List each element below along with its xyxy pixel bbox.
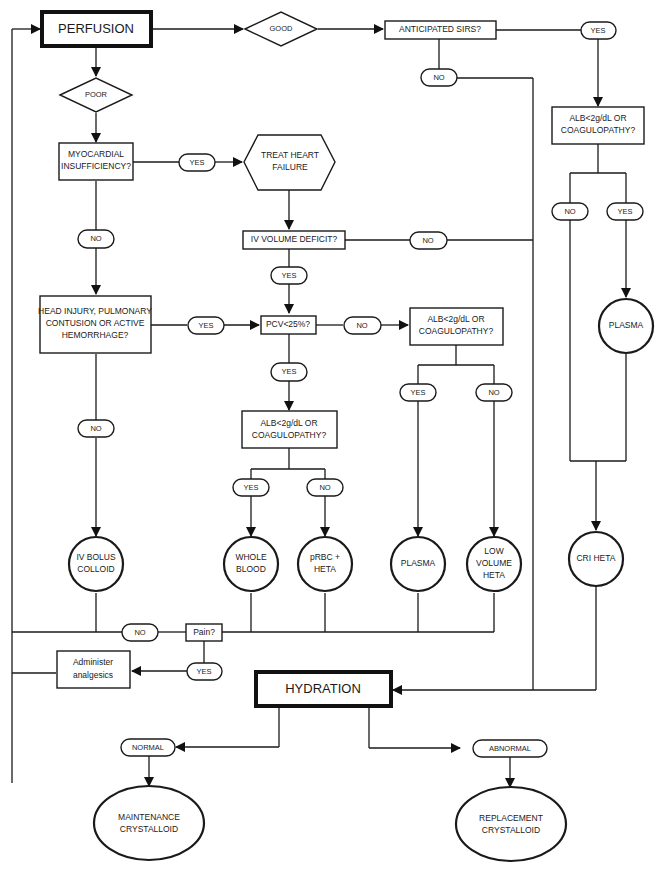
pcv-node: PCV<25%?: [261, 316, 316, 334]
analgesics-label-1: Administer: [73, 657, 113, 667]
replacement-label-2: CRYSTALLOID: [482, 825, 540, 835]
pcv-yes-alb-no-label: NO: [319, 483, 330, 492]
myocardial-no-label: NO: [90, 234, 101, 243]
poor-decision: POOR: [60, 78, 132, 112]
prbc-heta-circle: pRBC + HETA: [298, 537, 352, 591]
normal-pill: NORMAL: [121, 739, 175, 756]
head-injury-label-3: HEMORRHAGE?: [62, 330, 129, 340]
perfusion-label: PERFUSION: [58, 21, 134, 36]
low-volume-label-2: VOLUME: [476, 558, 512, 568]
head-injury-no-label: NO: [90, 424, 101, 433]
normal-label: NORMAL: [132, 743, 164, 752]
low-volume-heta-circle: LOW VOLUME HETA: [467, 537, 521, 591]
iv-bolus-label-1: IV BOLUS: [76, 552, 116, 562]
pcv-yes-alb-yes-pill: YES: [233, 479, 269, 496]
treat-heart-label-1: TREAT HEART: [261, 150, 319, 160]
plasma-label: PLASMA: [401, 558, 436, 568]
right-plasma-label: PLASMA: [609, 320, 644, 330]
pcv-no-alb-no-pill: NO: [476, 384, 512, 401]
myocardial-node: MYOCARDIAL INSUFFICIENCY?: [59, 143, 133, 180]
treat-heart-failure-node: TREAT HEART FAILURE: [244, 135, 335, 190]
cri-heta-label: CRI HETA: [576, 553, 615, 563]
pcv-yes-alb-node: ALB<2g/dL OR COAGULOPATHY?: [242, 411, 337, 448]
right-alb-node: ALB<2g/dL OR COAGULOPATHY?: [552, 107, 644, 144]
plasma-circle: PLASMA: [391, 537, 445, 591]
head-injury-yes-pill: YES: [188, 317, 224, 334]
right-alb-no-label: NO: [564, 207, 575, 216]
head-injury-no-pill: NO: [78, 420, 114, 437]
pain-label: Pain?: [193, 627, 215, 637]
pain-no-label: NO: [134, 628, 145, 637]
pain-yes-pill: YES: [187, 663, 222, 680]
low-volume-label-3: HETA: [483, 570, 505, 580]
anticipated-sirs-label: ANTICIPATED SIRS?: [399, 24, 481, 34]
abnormal-label: ABNORMAL: [489, 744, 531, 753]
right-alb-yes-pill: YES: [607, 203, 643, 220]
whole-blood-label-1: WHOLE: [235, 552, 267, 562]
prbc-label-2: HETA: [314, 564, 336, 574]
pcv-yes-label: YES: [281, 367, 296, 376]
whole-blood-label-2: BLOOD: [236, 564, 266, 574]
administer-analgesics-node: Administer analgesics: [57, 651, 130, 688]
iv-volume-yes-pill: YES: [271, 267, 307, 284]
poor-label: POOR: [85, 90, 108, 99]
pcv-no-alb-yes-pill: YES: [400, 384, 436, 401]
maintenance-label-2: CRYSTALLOID: [120, 824, 178, 834]
pcv-label: PCV<25%?: [266, 319, 310, 329]
hydration-node: HYDRATION: [256, 672, 391, 706]
pcv-no-alb-label-1: ALB<2g/dL OR: [427, 314, 484, 324]
head-injury-yes-label: YES: [198, 321, 213, 330]
right-alb-label-2: COAGULOPATHY?: [561, 125, 636, 135]
pcv-yes-alb-label-1: ALB<2g/dL OR: [260, 418, 317, 428]
replacement-crystalloid-ellipse: REPLACEMENT CRYSTALLOID: [456, 787, 566, 861]
myocardial-yes-pill: YES: [179, 154, 215, 171]
pcv-no-label: NO: [356, 321, 367, 330]
iv-volume-no-pill: NO: [410, 232, 447, 249]
sirs-no-pill: NO: [421, 69, 457, 86]
iv-volume-deficit-label: IV VOLUME DEFICIT?: [251, 234, 338, 244]
myocardial-no-pill: NO: [78, 230, 114, 248]
pcv-yes-alb-label-2: COAGULOPATHY?: [252, 430, 327, 440]
head-injury-label-1: HEAD INJURY, PULMONARY: [38, 306, 152, 316]
right-plasma-circle: PLASMA: [599, 299, 653, 353]
pain-yes-label: YES: [196, 667, 211, 676]
myocardial-label-2: INSUFFICIENCY?: [61, 161, 131, 171]
myocardial-yes-label: YES: [189, 158, 204, 167]
low-volume-label-1: LOW: [484, 546, 503, 556]
prbc-label-1: pRBC +: [310, 552, 340, 562]
pcv-no-alb-label-2: COAGULOPATHY?: [419, 326, 494, 336]
pcv-no-alb-node: ALB<2g/dL OR COAGULOPATHY?: [410, 308, 503, 345]
myocardial-label-1: MYOCARDIAL: [68, 149, 124, 159]
cri-heta-circle: CRI HETA: [569, 532, 623, 586]
head-injury-node: HEAD INJURY, PULMONARY CONTUSION OR ACTI…: [38, 296, 152, 353]
pcv-yes-pill: YES: [271, 363, 307, 381]
iv-bolus-label-2: COLLOID: [77, 564, 114, 574]
head-injury-label-2: CONTUSION OR ACTIVE: [46, 318, 145, 328]
sirs-yes-label: YES: [590, 26, 605, 35]
pain-node: Pain?: [186, 624, 222, 641]
analgesics-label-2: analgesics: [73, 670, 113, 680]
iv-bolus-colloid-circle: IV BOLUS COLLOID: [69, 537, 123, 591]
right-alb-label-1: ALB<2g/dL OR: [569, 113, 626, 123]
pcv-no-alb-no-label: NO: [488, 388, 499, 397]
good-decision: GOOD: [245, 12, 317, 46]
iv-volume-deficit-node: IV VOLUME DEFICIT?: [243, 231, 345, 249]
anticipated-sirs-node: ANTICIPATED SIRS?: [385, 21, 496, 39]
right-alb-yes-label: YES: [617, 207, 632, 216]
abnormal-pill: ABNORMAL: [473, 740, 547, 757]
iv-volume-yes-label: YES: [281, 271, 296, 280]
treat-heart-label-2: FAILURE: [272, 162, 308, 172]
replacement-label-1: REPLACEMENT: [479, 813, 543, 823]
pcv-yes-alb-no-pill: NO: [307, 479, 343, 496]
right-alb-no-pill: NO: [552, 203, 588, 220]
hydration-label: HYDRATION: [285, 681, 361, 696]
perfusion-node: PERFUSION: [42, 12, 151, 46]
pcv-yes-alb-yes-label: YES: [243, 483, 258, 492]
fluid-therapy-flowchart: PERFUSION GOOD POOR ANTICIPATED SIRS? YE…: [0, 0, 658, 871]
maintenance-crystalloid-ellipse: MAINTENANCE CRYSTALLOID: [94, 786, 204, 860]
sirs-yes-pill: YES: [581, 22, 616, 39]
sirs-no-label: NO: [433, 73, 444, 82]
pcv-no-pill: NO: [344, 317, 381, 334]
good-label: GOOD: [270, 24, 294, 33]
pcv-no-alb-yes-label: YES: [410, 388, 425, 397]
